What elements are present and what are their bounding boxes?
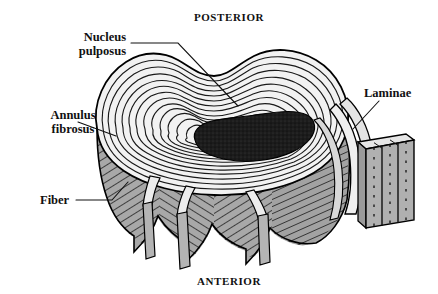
label-annulus-fibrosus-line1: Annulus bbox=[50, 108, 95, 122]
disc-diagram-canvas: POSTERIOR ANTERIOR Nucleus pulposus Annu… bbox=[0, 0, 438, 294]
orientation-label-anterior: ANTERIOR bbox=[197, 275, 262, 287]
label-laminae: Laminae bbox=[364, 86, 412, 100]
label-fiber: Fiber bbox=[40, 193, 70, 207]
laminae-block bbox=[358, 134, 414, 228]
disc-top-surface bbox=[96, 50, 348, 195]
label-nucleus-pulposus-line1: Nucleus bbox=[84, 30, 127, 44]
label-annulus-fibrosus-line2: fibrosus bbox=[52, 122, 95, 136]
detached-strip-3 bbox=[258, 214, 270, 265]
disc-diagram-figure: POSTERIOR ANTERIOR Nucleus pulposus Annu… bbox=[0, 0, 438, 294]
orientation-label-posterior: POSTERIOR bbox=[194, 11, 265, 23]
label-nucleus-pulposus-line2: pulposus bbox=[79, 44, 126, 58]
detached-strip-2 bbox=[177, 212, 190, 269]
laminae-block-side bbox=[358, 142, 366, 228]
